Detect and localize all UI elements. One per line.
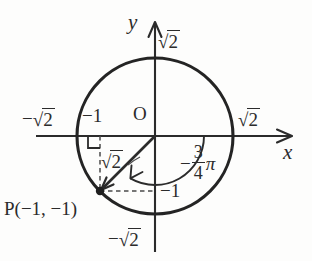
y-axis-tick-label-neg-sqrt2: − √2 bbox=[108, 228, 141, 249]
diagram-canvas: y x O √2 − √2 √2 − √2 −1 −1 bbox=[0, 0, 312, 261]
unit-circle-figure bbox=[0, 0, 312, 261]
angle-minus-sign: − bbox=[180, 154, 191, 173]
x-axis bbox=[36, 130, 292, 143]
angle-fraction: 3 4 bbox=[192, 143, 205, 182]
x-axis-tick-label-neg-one: −1 bbox=[82, 106, 102, 125]
point-p-marker bbox=[96, 187, 104, 195]
angle-denominator: 4 bbox=[192, 162, 205, 182]
radius-length-label: √2 bbox=[101, 150, 123, 171]
pi-symbol: π bbox=[206, 154, 216, 173]
x-axis-tick-label-neg-sqrt2: − √2 bbox=[22, 108, 55, 129]
right-angle-mark bbox=[88, 136, 100, 148]
origin-label: O bbox=[133, 104, 147, 123]
point-p-label: P(−1, −1) bbox=[4, 199, 77, 218]
y-axis-tick-label-neg-one: −1 bbox=[160, 181, 180, 200]
y-axis-tick-label-sqrt2: √2 bbox=[158, 30, 180, 51]
minus-sign: − bbox=[22, 109, 33, 128]
angle-label: − 3 4 π bbox=[180, 144, 215, 183]
minus-sign: − bbox=[108, 229, 119, 248]
y-axis-label: y bbox=[128, 12, 137, 33]
x-axis-tick-label-sqrt2: √2 bbox=[238, 108, 260, 129]
angle-numerator: 3 bbox=[192, 143, 205, 162]
x-axis-label: x bbox=[283, 142, 292, 163]
